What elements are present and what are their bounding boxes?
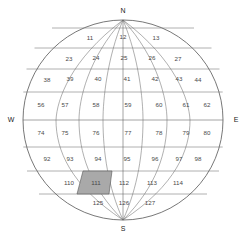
- grid-cell-92[interactable]: 92: [44, 155, 51, 162]
- grid-cell-23[interactable]: 23: [66, 55, 73, 62]
- grid-cell-38[interactable]: 38: [44, 76, 51, 83]
- grid-cell-112[interactable]: 112: [119, 179, 129, 186]
- grid-cell-41[interactable]: 41: [124, 75, 131, 82]
- cardinal-east: E: [234, 116, 239, 123]
- grid-cell-126[interactable]: 126: [119, 199, 130, 206]
- grid-cell-93[interactable]: 93: [67, 155, 74, 162]
- grid-cell-125[interactable]: 125: [93, 199, 104, 206]
- grid-cell-60[interactable]: 60: [156, 101, 163, 108]
- grid-cell-62[interactable]: 62: [204, 101, 211, 108]
- grid-cell-44[interactable]: 44: [195, 76, 202, 83]
- grid-cell-78[interactable]: 78: [156, 129, 163, 136]
- grid-cell-11[interactable]: 11: [87, 34, 94, 41]
- grid-cell-27[interactable]: 27: [175, 55, 182, 62]
- grid-cell-58[interactable]: 58: [93, 101, 100, 108]
- cardinal-south: S: [121, 225, 126, 232]
- grid-cell-95[interactable]: 95: [124, 155, 131, 162]
- cardinal-west: W: [8, 116, 15, 123]
- grid-cell-111[interactable]: 111: [91, 179, 101, 186]
- grid-cell-127[interactable]: 127: [145, 199, 156, 206]
- grid-cell-114[interactable]: 114: [173, 179, 183, 186]
- grid-cell-56[interactable]: 56: [38, 101, 45, 108]
- grid-cell-94[interactable]: 94: [95, 155, 102, 162]
- cell-label-group: 1112132324252627383940414243445657585960…: [38, 33, 211, 206]
- grid-cell-110[interactable]: 110: [64, 179, 74, 186]
- grid-cell-24[interactable]: 24: [93, 54, 100, 61]
- grid-cell-61[interactable]: 61: [183, 101, 190, 108]
- grid-cell-26[interactable]: 26: [149, 54, 156, 61]
- grid-cell-12[interactable]: 12: [120, 33, 127, 40]
- cardinal-north: N: [120, 7, 125, 14]
- grid-cell-96[interactable]: 96: [152, 155, 159, 162]
- globe-svg: N S W E 11121323242526273839404142434456…: [0, 0, 250, 239]
- grid-cell-40[interactable]: 40: [95, 75, 102, 82]
- sphere-grid-diagram: N S W E 11121323242526273839404142434456…: [0, 0, 250, 239]
- grid-cell-57[interactable]: 57: [62, 101, 69, 108]
- grid-cell-80[interactable]: 80: [204, 129, 211, 136]
- grid-cell-113[interactable]: 113: [147, 179, 157, 186]
- grid-cell-74[interactable]: 74: [38, 129, 45, 136]
- grid-cell-25[interactable]: 25: [121, 54, 128, 61]
- grid-cell-79[interactable]: 79: [183, 129, 190, 136]
- grid-cell-42[interactable]: 42: [152, 75, 159, 82]
- grid-cell-75[interactable]: 75: [62, 129, 69, 136]
- grid-cell-13[interactable]: 13: [153, 34, 160, 41]
- grid-cell-77[interactable]: 77: [125, 129, 132, 136]
- grid-cell-59[interactable]: 59: [125, 101, 132, 108]
- grid-cell-76[interactable]: 76: [93, 129, 100, 136]
- grid-cell-39[interactable]: 39: [67, 75, 74, 82]
- grid-cell-97[interactable]: 97: [176, 155, 183, 162]
- grid-cell-43[interactable]: 43: [176, 75, 183, 82]
- grid-cell-98[interactable]: 98: [195, 155, 202, 162]
